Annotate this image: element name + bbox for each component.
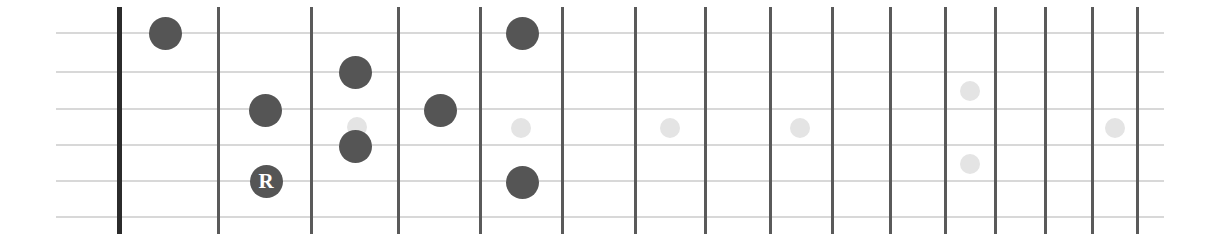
inlay-fret-5: [511, 118, 531, 138]
fret-line-9: [831, 7, 834, 234]
string-1: [56, 32, 1164, 34]
fret-line-10: [889, 7, 892, 234]
fret-line-3: [397, 7, 400, 234]
string-4: [56, 144, 1164, 146]
fret-line-7: [704, 7, 707, 234]
inlay-fret-9: [790, 118, 810, 138]
fret-line-8: [769, 7, 772, 234]
nut: [117, 7, 122, 234]
fret-line-1: [217, 7, 220, 234]
fretboard-diagram: R: [0, 0, 1219, 243]
fret-line-5: [561, 7, 564, 234]
fret-line-12: [994, 7, 997, 234]
fret-line-14: [1091, 7, 1094, 234]
string-2: [56, 71, 1164, 73]
string-3: [56, 108, 1164, 110]
note-fret4-string3[interactable]: [424, 94, 457, 127]
string-6: [56, 216, 1164, 218]
note-fret3-string4[interactable]: [339, 130, 372, 163]
note-fret5-string6[interactable]: [506, 166, 539, 199]
inlay-fret-12-lower: [960, 154, 980, 174]
note-fret2-string3[interactable]: [249, 94, 282, 127]
fret-line-11: [944, 7, 947, 234]
note-fret5-string1[interactable]: [506, 17, 539, 50]
fret-line-4: [479, 7, 482, 234]
fret-line-6: [634, 7, 637, 234]
note-fret3-string2[interactable]: [339, 56, 372, 89]
inlay-fret-15: [1105, 118, 1125, 138]
note-fret2-string6-root[interactable]: R: [250, 165, 283, 198]
fret-line-13: [1044, 7, 1047, 234]
note-fret1-string1[interactable]: [149, 17, 182, 50]
root-note-label: R: [258, 171, 273, 192]
string-5: [56, 180, 1164, 182]
inlay-fret-12-upper: [960, 81, 980, 101]
inlay-fret-7: [660, 118, 680, 138]
fret-line-15: [1136, 7, 1139, 234]
fret-line-2: [310, 7, 313, 234]
